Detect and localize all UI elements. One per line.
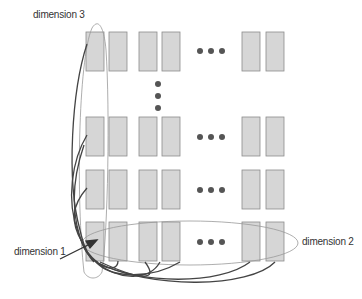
dimension-3-label: dimension 3	[33, 9, 85, 20]
dimension-1-label: dimension 1	[14, 246, 66, 257]
dimension-2-label: dimension 2	[302, 236, 354, 247]
